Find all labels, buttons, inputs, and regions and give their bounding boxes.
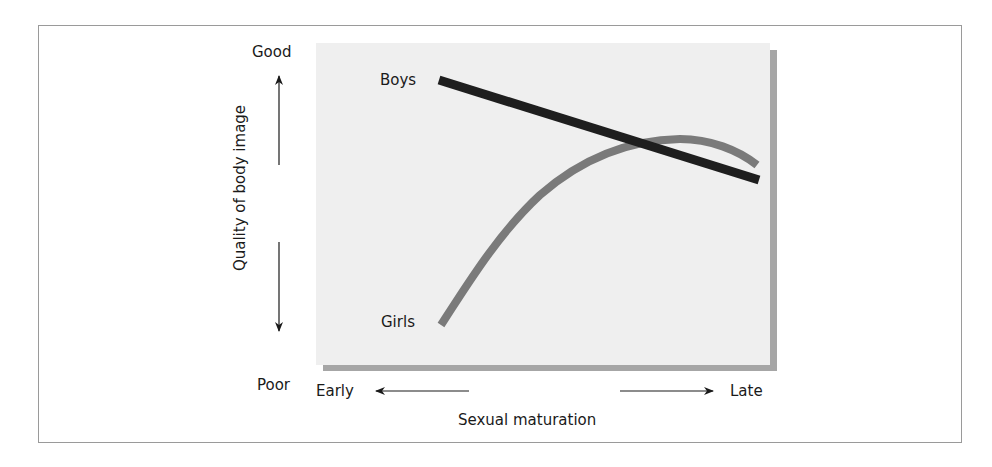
x-left-label: Early (316, 384, 354, 399)
y-bottom-label: Poor (257, 378, 290, 393)
x-right-label: Late (730, 384, 763, 399)
chart-svg (0, 0, 992, 467)
plot-shadow-bottom (323, 365, 777, 371)
boys-series-label: Boys (380, 73, 416, 88)
plot-shadow-right (770, 50, 777, 371)
girls-series-label: Girls (381, 315, 415, 330)
y-axis-title: Quality of body image (231, 105, 249, 271)
x-axis-title: Sexual maturation (458, 413, 596, 428)
y-top-label: Good (252, 45, 292, 60)
